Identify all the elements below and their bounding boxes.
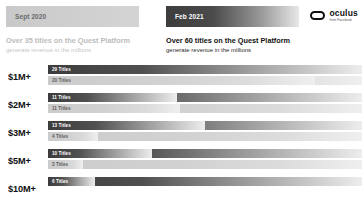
bar-feb-2021: 6 Titles: [48, 177, 362, 186]
bar-value-label: 6 Titles: [48, 179, 68, 184]
headline-sept-2020: Over 35 titles on the Quest Platform gen…: [6, 36, 156, 55]
bar-value-label: 10 Titles: [48, 151, 71, 156]
bar-feb-2021: 29 Titles: [48, 65, 362, 74]
bar-fill: [48, 76, 315, 85]
headline-sept-2020-main: Over 35 titles on the Quest Platform: [6, 36, 156, 45]
chart-row: $3M+13 Titles4 Titles: [0, 119, 364, 147]
oculus-logo-text: oculus from Facebook: [329, 9, 358, 22]
bar-value-label: 11 Titles: [48, 106, 71, 111]
bar-feb-2021: 10 Titles: [48, 149, 362, 158]
bar-fill: [48, 65, 362, 74]
bar-fill: [48, 121, 205, 130]
bar-sept-2020: 3 Titles: [48, 160, 362, 169]
headline-feb-2021: Over 60 titles on the Quest Platform gen…: [166, 36, 336, 55]
row-label-1m: $1M+: [8, 72, 31, 82]
bar-value-label: 13 Titles: [48, 123, 71, 128]
row-bars: 11 Titles11 Titles: [48, 93, 362, 114]
chart-row: $5M+10 Titles3 Titles: [0, 147, 364, 175]
bar-feb-2021: 13 Titles: [48, 121, 362, 130]
headline-feb-2021-sub: generate revenue in the millions: [166, 47, 336, 55]
badge-sept-2020: Sept 2020: [6, 6, 139, 27]
headline-sept-2020-sub: generate revenue in the millions: [6, 47, 156, 55]
oculus-logo: oculus from Facebook: [310, 9, 358, 22]
bar-value-label: 29 Titles: [48, 67, 71, 72]
row-label-5m: $5M+: [8, 156, 31, 166]
bar-sept-2020: 20 Titles: [48, 76, 362, 85]
bar-value-label: 20 Titles: [48, 78, 71, 83]
infographic-root: Sept 2020 Feb 2021 oculus from Facebook …: [0, 0, 364, 215]
bar-value-label: 3 Titles: [48, 162, 68, 167]
bar-sept-2020: 4 Titles: [48, 132, 362, 141]
bar-feb-2021: 11 Titles: [48, 93, 362, 102]
row-label-10m: $10M+: [8, 184, 36, 194]
chart-row: $10M+6 Titles: [0, 175, 364, 203]
bar-value-label: 11 Titles: [48, 95, 71, 100]
oculus-from-facebook-label: from Facebook: [329, 19, 358, 22]
chart-row: $2M+11 Titles11 Titles: [0, 91, 364, 119]
row-label-3m: $3M+: [8, 128, 31, 138]
row-bars: 13 Titles4 Titles: [48, 121, 362, 142]
oculus-wordmark: oculus: [329, 9, 358, 18]
row-bars: 10 Titles3 Titles: [48, 149, 362, 170]
badge-feb-2021: Feb 2021: [166, 6, 299, 27]
row-bars: 29 Titles20 Titles: [48, 65, 362, 86]
badge-sept-2020-label: Sept 2020: [15, 13, 46, 20]
row-bars: 6 Titles: [48, 177, 362, 188]
revenue-tier-bar-chart: $1M+29 Titles20 Titles$2M+11 Titles11 Ti…: [0, 63, 364, 215]
bar-value-label: 4 Titles: [48, 134, 68, 139]
oculus-headset-icon: [310, 11, 325, 20]
chart-row: $1M+29 Titles20 Titles: [0, 63, 364, 91]
badge-feb-2021-label: Feb 2021: [175, 13, 204, 20]
bar-sept-2020: 11 Titles: [48, 104, 362, 113]
headline-feb-2021-main: Over 60 titles on the Quest Platform: [166, 36, 336, 45]
row-label-2m: $2M+: [8, 100, 31, 110]
